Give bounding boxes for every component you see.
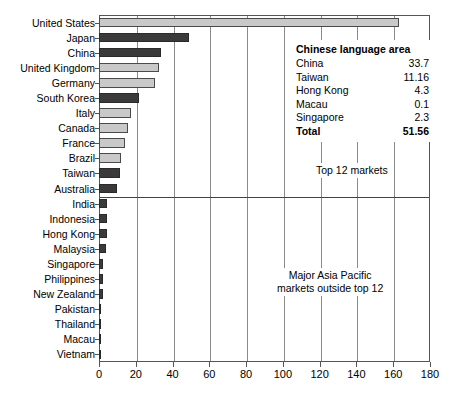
bar-south-korea [99,93,139,103]
inset-table-total-row: Total 51.56 [296,125,429,139]
y-axis-label-united-states: United States [0,17,95,29]
bar-row [99,15,430,30]
y-axis-tick [95,173,99,174]
y-axis-label-malaysia: Malaysia [0,243,95,255]
inset-row-name: Singapore [296,111,344,125]
inset-row-name: Macau [296,98,328,112]
x-axis-label-120: 120 [300,368,340,381]
y-axis-tick [95,294,99,295]
bar-united-kingdom [99,63,159,73]
x-axis-label-160: 160 [373,368,413,381]
bar-india [99,199,107,209]
bar-chart: United StatesJapanChinaUnited KingdomGer… [0,0,454,399]
bar-taiwan [99,168,120,178]
y-axis-label-thailand: Thailand [0,318,95,330]
bar-japan [99,33,189,43]
inset-row-value: 2.3 [414,111,429,125]
y-axis-label-philippines: Philippines [0,273,95,285]
y-axis-tick [95,264,99,265]
bar-new-zealand [99,289,103,299]
inset-table-row: Macau0.1 [296,98,429,112]
y-axis-label-france: France [0,137,95,149]
inset-total-value: 51.56 [403,125,429,139]
bar-china [99,48,161,58]
y-axis-tick [95,279,99,280]
bar-germany [99,78,155,88]
y-axis-label-china: China [0,47,95,59]
bar-canada [99,123,128,133]
y-axis-label-macau: Macau [0,333,95,345]
annotation-apac-line2: markets outside top 12 [277,282,383,295]
y-axis-label-vietnam: Vietnam [0,348,95,360]
inset-total-label: Total [296,125,320,139]
bar-row [99,226,430,241]
y-axis-label-canada: Canada [0,122,95,134]
x-axis-tick-40 [173,362,174,367]
y-axis-label-australia: Australia [0,183,95,195]
x-axis-label-20: 20 [116,368,156,381]
x-axis-label-60: 60 [189,368,229,381]
bar-australia [99,184,117,194]
y-axis-tick [95,38,99,39]
inset-table-row: Singapore2.3 [296,111,429,125]
inset-row-value: 33.7 [409,57,429,71]
y-axis-label-united-kingdom: United Kingdom [0,62,95,74]
x-axis-label-80: 80 [226,368,266,381]
y-axis-label-hong-kong: Hong Kong [0,228,95,240]
inset-row-name: Taiwan [296,71,329,85]
inset-table-row: Taiwan11.16 [296,71,429,85]
x-axis-label-0: 0 [79,368,119,381]
y-axis-label-taiwan: Taiwan [0,167,95,179]
bar-row [99,317,430,332]
inset-table-row: Hong Kong4.3 [296,84,429,98]
inset-table-row: China33.7 [296,57,429,71]
y-axis-tick [95,249,99,250]
x-axis-tick-160 [393,362,394,367]
annotation-top-12-markets: Top 12 markets [312,163,392,178]
y-axis-tick [95,68,99,69]
x-axis-label-140: 140 [336,368,376,381]
inset-table-chinese-language-area: Chinese language area China33.7Taiwan11.… [293,40,432,142]
y-axis-label-italy: Italy [0,107,95,119]
inset-row-value: 11.16 [404,71,430,85]
y-axis-tick [95,83,99,84]
y-axis-labels: United StatesJapanChinaUnited KingdomGer… [0,15,95,362]
x-axis-tick-60 [209,362,210,367]
bar-row [99,302,430,317]
y-axis-tick [95,234,99,235]
y-axis-tick [95,219,99,220]
bar-italy [99,108,131,118]
bar-row [99,241,430,256]
inset-table-rows: China33.7Taiwan11.16Hong Kong4.3Macau0.1… [296,57,429,125]
y-axis-tick [95,23,99,24]
inset-table-title: Chinese language area [296,42,429,56]
x-axis-tick-0 [99,362,100,367]
y-axis-label-pakistan: Pakistan [0,303,95,315]
bar-malaysia [99,244,106,254]
y-axis-tick [95,143,99,144]
y-axis-label-brazil: Brazil [0,152,95,164]
bar-row [99,332,430,347]
inset-row-value: 4.3 [414,84,429,98]
bar-row [99,347,430,362]
x-axis-label-100: 100 [263,368,303,381]
x-axis-tick-140 [356,362,357,367]
bar-indonesia [99,214,107,224]
x-axis-tick-20 [136,362,137,367]
x-axis-label-180: 180 [410,368,450,381]
bar-row [99,181,430,196]
bar-france [99,138,125,148]
bar-macau [99,334,101,344]
y-axis-tick [95,189,99,190]
x-axis-label-40: 40 [153,368,193,381]
y-axis-label-new-zealand: New Zealand [0,288,95,300]
y-axis-label-india: India [0,198,95,210]
bar-row [99,196,430,211]
y-axis-label-indonesia: Indonesia [0,213,95,225]
x-axis-tick-180 [430,362,431,367]
inset-row-value: 0.1 [414,98,429,112]
y-axis-tick [95,98,99,99]
bar-united-states [99,18,399,28]
bar-hong-kong [99,229,107,239]
annotation-apac-line1: Major Asia Pacific [277,269,383,282]
